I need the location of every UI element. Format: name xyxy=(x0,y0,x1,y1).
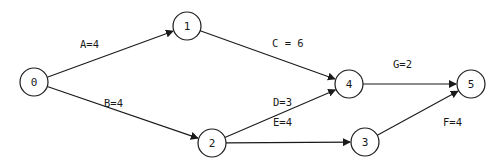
node-0: 0 xyxy=(20,68,48,96)
network-diagram: 012345 A=4B=4C = 6D=3E=4G=2F=4 xyxy=(0,0,500,168)
edge-labels-layer: A=4B=4C = 6D=3E=4G=2F=4 xyxy=(80,37,462,128)
edge-c-arrow xyxy=(200,31,335,79)
edge-label-e: E=4 xyxy=(273,116,292,128)
edge-label-d: D=3 xyxy=(273,96,292,108)
edge-label-f: F=4 xyxy=(443,116,462,128)
node-3: 3 xyxy=(351,128,379,156)
edges-layer xyxy=(47,31,458,143)
node-label: 4 xyxy=(346,78,353,91)
edge-label-a: A=4 xyxy=(80,38,99,50)
node-1: 1 xyxy=(173,12,201,40)
edge-label-g: G=2 xyxy=(393,58,412,70)
edge-a-arrow xyxy=(47,31,173,77)
edge-b-arrow xyxy=(47,87,198,139)
edge-f-arrow xyxy=(377,91,458,135)
edge-label-b: B=4 xyxy=(104,97,123,109)
edge-label-c: C = 6 xyxy=(272,37,304,49)
edge-e-arrow xyxy=(226,142,350,143)
node-label: 0 xyxy=(31,76,38,89)
node-label: 1 xyxy=(184,20,191,33)
node-label: 5 xyxy=(468,78,475,91)
node-5: 5 xyxy=(457,70,485,98)
node-label: 2 xyxy=(209,137,216,150)
node-2: 2 xyxy=(198,129,226,157)
node-label: 3 xyxy=(362,136,369,149)
node-4: 4 xyxy=(335,70,363,98)
